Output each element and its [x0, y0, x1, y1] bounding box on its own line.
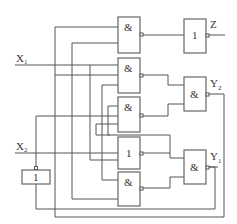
label-y2: Y 2 [210, 77, 222, 92]
svg-text:&: & [124, 21, 133, 33]
svg-text:1: 1 [192, 29, 198, 41]
gate-and-1: & [118, 17, 143, 53]
gate-and-3: & [118, 97, 143, 132]
label-y1: Y 1 [210, 150, 222, 165]
gate-or-4: 1 [118, 137, 143, 169]
gate-and-y1: & [184, 150, 209, 184]
label-x1: X 1 [16, 52, 28, 66]
gate-or-z: 1 [184, 19, 209, 53]
svg-text:X: X [16, 52, 24, 64]
gate-and-y2: & [184, 77, 209, 111]
gate-and-2: & [118, 58, 143, 93]
svg-text:Y: Y [210, 77, 218, 89]
svg-text:&: & [190, 161, 199, 173]
svg-text:2: 2 [218, 84, 222, 92]
svg-text:1: 1 [218, 157, 222, 165]
svg-text:X: X [16, 140, 24, 152]
svg-text:2: 2 [24, 146, 28, 154]
svg-text:&: & [190, 88, 199, 100]
gate-and-5: & [118, 172, 143, 206]
svg-text:1: 1 [24, 58, 28, 66]
svg-text:1: 1 [33, 171, 39, 183]
svg-text:&: & [124, 176, 133, 188]
svg-text:Z: Z [210, 18, 217, 30]
svg-text:Y: Y [210, 150, 218, 162]
svg-text:1: 1 [126, 147, 132, 159]
svg-text:&: & [124, 101, 133, 113]
gate-inverter: 1 [22, 167, 50, 185]
svg-text:&: & [124, 62, 133, 74]
label-x2: X 2 [16, 140, 28, 154]
label-z: Z [210, 18, 217, 30]
logic-circuit-diagram: & & & 1 & 1 & & 1 [0, 0, 237, 224]
